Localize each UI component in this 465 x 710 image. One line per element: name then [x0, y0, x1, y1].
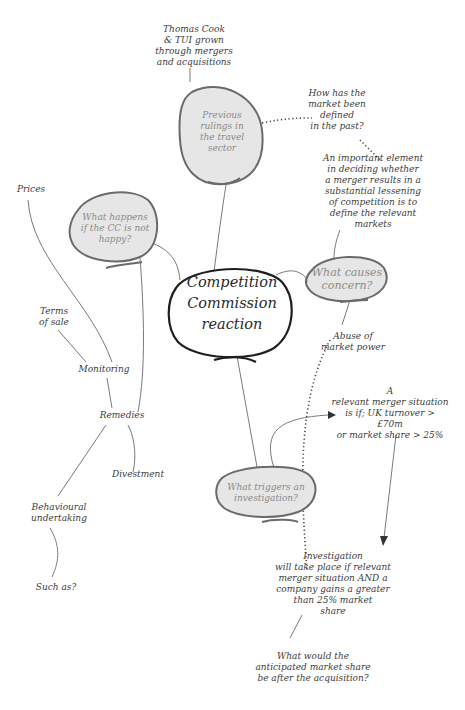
note-investigation: Investigation will take place if relevan…: [270, 551, 396, 617]
bubble-what-triggers-label[interactable]: What triggers an investigation?: [216, 482, 316, 504]
bubble-what-causes-label[interactable]: What causes concern?: [306, 266, 388, 292]
note-behavioural-undertaking: Behavioural undertaking: [28, 502, 90, 524]
note-important-element: An important element in deciding whether…: [318, 153, 428, 230]
note-such-as: Such as?: [34, 582, 78, 593]
note-monitoring: Monitoring: [74, 364, 134, 375]
note-remedies: Remedies: [96, 410, 148, 421]
bubble-previous-rulings-label[interactable]: Previous rulings in the travel sector: [184, 110, 260, 154]
note-thomas-cook: Thomas Cook & TUI grown through mergers …: [150, 24, 238, 68]
note-terms-of-sale: Terms of sale: [34, 306, 74, 328]
central-topic[interactable]: Competition Commission reaction: [168, 272, 296, 335]
note-abuse-market-power: Abuse of market power: [318, 331, 388, 353]
note-market-defined: How has the market been defined in the p…: [294, 88, 380, 132]
note-relevant-merger: A relevant merger situation is if; UK tu…: [326, 386, 454, 441]
note-anticipated-share: What would the anticipated market share …: [254, 651, 372, 684]
bubble-what-happens-label[interactable]: What happens if the CC is not happy?: [72, 212, 158, 245]
note-divestment: Divestment: [108, 469, 168, 480]
note-prices: Prices: [14, 184, 48, 195]
